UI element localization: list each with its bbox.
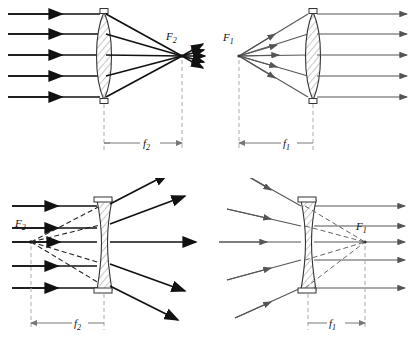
diagram-bottom-right: F1 f1 xyxy=(209,178,419,357)
diagram-top-right: F1 xyxy=(209,0,419,178)
incoming-rays-group xyxy=(12,206,97,288)
incoming-ray-arrowheads xyxy=(219,178,271,318)
diagram-bottom-left: F2 xyxy=(0,178,210,357)
converging-lens xyxy=(306,9,321,104)
converging-lens xyxy=(97,9,112,104)
focal-point-marker xyxy=(237,54,240,57)
outgoing-parallel-rays xyxy=(317,14,407,97)
focal-distance-label: f2 xyxy=(143,137,150,152)
panel-top-right: F1 xyxy=(209,0,419,178)
post-focus-rays xyxy=(182,44,205,68)
dimension-guides xyxy=(239,60,313,150)
focal-point-label: F2 xyxy=(165,30,177,45)
virtual-ray-extensions xyxy=(31,204,104,286)
panel-bottom-right: F1 f1 xyxy=(209,178,419,357)
virtual-focal-point-marker xyxy=(363,240,366,243)
diverging-lens xyxy=(94,197,112,293)
focal-point-label: F2 xyxy=(14,217,26,232)
outgoing-parallel-rays xyxy=(314,206,405,288)
incoming-converging-rays xyxy=(219,178,301,318)
optics-figure: F2 f2 xyxy=(0,0,419,357)
focal-point-marker xyxy=(180,54,183,57)
focal-point-label: F1 xyxy=(222,31,234,46)
focal-distance-label: f1 xyxy=(329,317,336,332)
panel-bottom-left: F2 xyxy=(0,178,210,357)
focal-distance-label: f1 xyxy=(283,137,290,152)
incoming-ray-arrowheads xyxy=(8,14,62,97)
refracted-rays-group xyxy=(106,14,182,97)
panel-top-left: F2 f2 xyxy=(0,0,210,178)
diagram-top-left: F2 f2 xyxy=(0,0,210,178)
diverging-output-rays xyxy=(110,178,196,320)
focal-distance-label: f2 xyxy=(74,317,81,332)
focal-point-label: F1 xyxy=(355,220,367,235)
